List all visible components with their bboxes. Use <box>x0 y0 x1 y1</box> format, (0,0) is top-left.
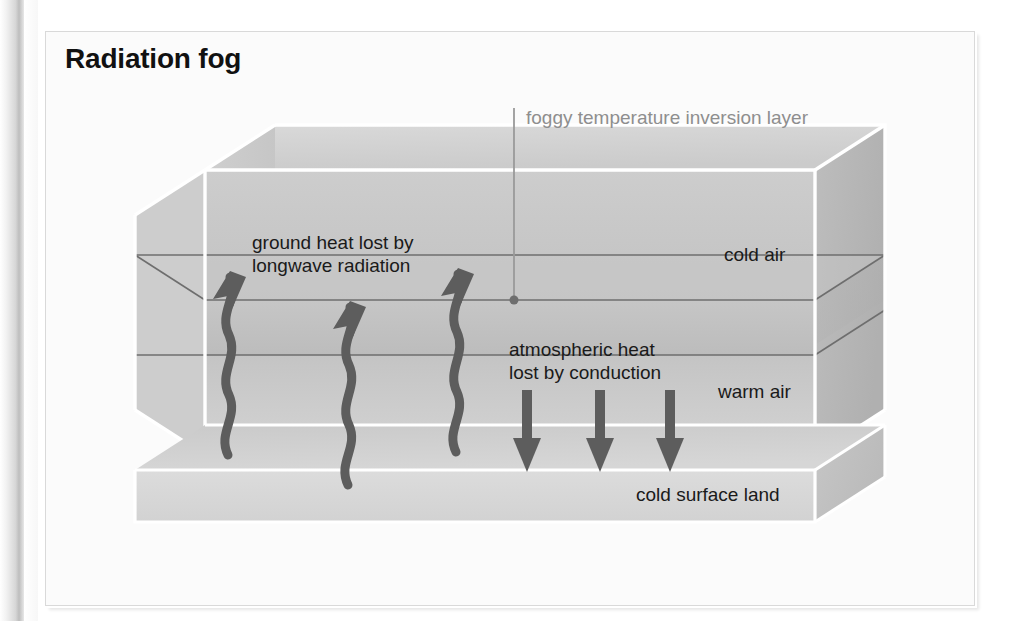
label-ground-heat-line1: ground heat lost by <box>252 231 414 254</box>
label-warm-air: warm air <box>718 380 791 403</box>
label-atmospheric-heat-line1: atmospheric heat <box>509 338 655 361</box>
radiation-fog-diagram <box>0 0 1011 621</box>
label-cold-surface-land: cold surface land <box>636 483 780 506</box>
cold-surface-land-slab <box>135 425 885 522</box>
box-top-face <box>205 125 885 170</box>
label-cold-air: cold air <box>724 243 785 266</box>
callout-label-foggy-inversion: foggy temperature inversion layer <box>526 106 808 129</box>
label-ground-heat-line2: longwave radiation <box>252 254 410 277</box>
label-atmospheric-heat-line2: lost by conduction <box>509 361 661 384</box>
figure-page: Radiation fog foggy temperature inversio… <box>0 0 1011 621</box>
figure-title: Radiation fog <box>65 44 241 75</box>
box-back-left-wall <box>135 170 205 455</box>
